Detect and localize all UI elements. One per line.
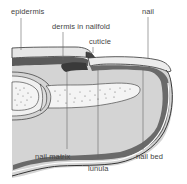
label-nail-matrix: nail matrix	[35, 153, 70, 161]
label-nail-bed: nail bed	[136, 153, 163, 161]
label-lunula: lunula	[88, 165, 109, 173]
label-dermis-in-nailfold: dermis in nailfold	[52, 23, 110, 31]
epidermis-layer	[12, 47, 92, 58]
label-nail: nail	[142, 8, 154, 16]
label-cuticle: cuticle	[89, 38, 111, 46]
label-epidermis: epidermis	[11, 8, 44, 16]
